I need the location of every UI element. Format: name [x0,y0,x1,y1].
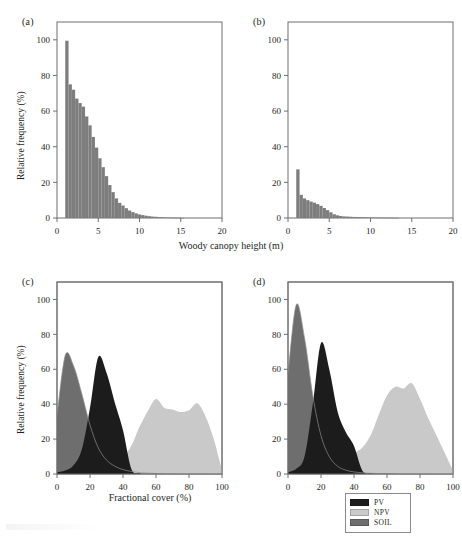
panel-a-bar [108,185,111,218]
panel-b-bar [352,217,355,218]
panel-a-bar [138,214,141,218]
figure-container: (a) Relative frequency (%) 0510152002040… [0,0,462,538]
panel-c-xtick-label: 100 [215,482,229,492]
panel-a-bar [118,203,121,218]
panel-d-xtick-label: 0 [286,482,291,492]
panel-d-xtick-label: 60 [383,482,393,492]
panel-b-bar [296,169,299,218]
panel-d-ytick-label: 0 [277,469,282,479]
panel-b-xtick-label: 20 [449,226,459,236]
panel-a-bar [102,167,105,218]
panel-a-bar [82,107,85,218]
panel-b-bar [372,217,375,218]
panel-b-bar [333,214,336,218]
caption-artifact [6,524,102,530]
panel-a-bar [75,99,78,218]
panel-b-ytick-label: 60 [272,106,282,116]
legend-item-npv: NPV [350,508,405,517]
panel-b-plot: 05101520020406080100 [231,0,462,250]
panel-b: (b) 05101520020406080100 [231,0,462,250]
panel-b-ytick-label: 80 [272,71,282,81]
panel-a-bar [164,217,167,218]
legend: PV NPV SOIL [345,493,411,533]
panel-a-bar [95,148,98,218]
panel-a-bar [88,125,91,218]
panel-b-bar [313,203,316,218]
panel-c-xtick-label: 80 [185,482,195,492]
panel-b-xtick-label: 0 [286,226,291,236]
panel-c-xtick-label: 20 [86,482,96,492]
panel-a-bar [177,218,180,219]
legend-swatch-soil [350,519,369,526]
panel-c-ytick-label: 20 [41,434,51,444]
panel-a-bar [161,217,164,218]
panel-c-ytick-label: 100 [37,295,51,305]
panel-b-bar [316,204,319,218]
panel-a-bar [154,217,157,218]
panel-a-ytick-label: 40 [41,142,51,152]
panel-b-bar [306,200,309,218]
panel-d-plot: 020406080100020406080100 [231,262,462,502]
panel-a-ytick-label: 0 [46,213,51,223]
panel-a-bar [131,212,134,218]
panel-d-ytick-label: 60 [272,364,282,374]
panel-c-xtick-label: 0 [55,482,60,492]
panel-a-bar [141,215,144,218]
panel-b-bar [319,206,322,218]
panel-a-bar [98,158,101,218]
panel-b-bar [356,217,359,218]
panel-b-bars [296,169,398,218]
panel-d-xtick-label: 40 [350,482,360,492]
panel-b-xtick-label: 5 [327,226,332,236]
panel-d-xtick-label: 20 [317,482,327,492]
panel-c: (c) Relative frequency (%) 0204060801000… [0,262,231,502]
panel-a-bar [121,206,124,218]
panel-b-xtick-label: 15 [407,226,417,236]
panel-b-bar [339,216,342,218]
panel-b-bar [379,218,382,219]
legend-item-soil: SOIL [350,518,405,527]
panel-b-bar [329,212,332,218]
panel-b-bar [369,217,372,218]
panel-c-plot: 020406080100020406080100 [0,262,231,502]
panel-a-bar [72,90,75,218]
panel-d-ytick-label: 80 [272,330,282,340]
panel-b-bar [375,218,378,219]
panel-b-bar [385,218,388,219]
legend-label-pv: PV [374,498,384,507]
panel-a-ytick-label: 60 [41,106,51,116]
panel-b-xtick-label: 10 [366,226,376,236]
top-xaxis-label: Woody canopy height (m) [0,240,462,251]
panel-a-bar [65,41,68,218]
panel-a-bar [158,217,161,218]
panel-c-ytick-label: 0 [46,469,51,479]
panel-a-bars [65,41,184,219]
panel-b-bar [300,195,303,218]
panel-b-bar [349,217,352,218]
panel-b-bar [359,217,362,218]
panel-c-xtick-label: 60 [152,482,162,492]
panel-a-bar [151,217,154,218]
legend-label-soil: SOIL [374,518,392,527]
panel-b-bar [303,198,306,218]
panel-a-bar [144,216,147,218]
panel-b-bar [382,218,385,219]
panel-a-bar [171,218,174,219]
panel-b-bar [326,210,329,218]
panel-a-bar [92,137,95,218]
panel-c-ytick-label: 80 [41,330,51,340]
panel-d-ytick-label: 100 [268,295,282,305]
panel-a-xtick-label: 20 [218,226,228,236]
panel-a-ytick-label: 80 [41,71,51,81]
panel-a-bar [125,208,128,218]
panel-d-ytick-label: 40 [272,399,282,409]
panel-a-bar [115,198,118,218]
panel-a-ytick-label: 100 [37,35,51,45]
panel-b-bar [395,218,398,219]
panel-a-bar [111,192,114,218]
panel-b-ytick-label: 40 [272,142,282,152]
panel-a-bar [181,218,184,219]
panel-a-plot: 05101520020406080100 [0,0,231,250]
panel-b-ytick-label: 100 [268,35,282,45]
panel-c-ytick-label: 40 [41,399,51,409]
